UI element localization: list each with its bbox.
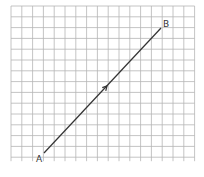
point-label-b: B — [163, 19, 169, 29]
line-segment-ab — [44, 28, 161, 153]
grid-lines — [11, 6, 195, 161]
point-label-a: A — [36, 154, 43, 164]
grid-diagram: A B — [0, 0, 204, 177]
